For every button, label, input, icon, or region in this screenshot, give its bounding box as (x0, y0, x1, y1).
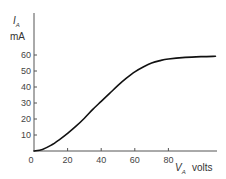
x-label-sub: A (181, 169, 186, 175)
x-tick-label: 60 (130, 155, 140, 165)
y-tick-label: 20 (21, 114, 31, 124)
y-tick-label: 50 (21, 66, 31, 76)
svg-text:VA: VA (175, 162, 186, 175)
y-tick-label: 60 (21, 50, 31, 60)
y-label-sub: A (15, 22, 20, 28)
x-tick-label: 20 (63, 155, 73, 165)
x-tick-label: 0 (28, 155, 33, 165)
y-tick-label: 40 (21, 82, 31, 92)
y-tick-label: 30 (21, 98, 31, 108)
chart: 102030405060 020406080 IA mA VA volts (0, 0, 226, 179)
svg-text:IA: IA (13, 15, 20, 28)
y-tick-label: 10 (21, 130, 31, 140)
y-ticks: 102030405060 (21, 50, 37, 140)
y-label-unit: mA (10, 31, 25, 42)
x-tick-label: 40 (96, 155, 106, 165)
x-tick-label: 80 (163, 155, 173, 165)
y-axis-label: IA mA (10, 15, 25, 42)
data-line (34, 56, 215, 151)
x-label-unit: volts (192, 162, 213, 173)
x-axis-label: VA volts (175, 162, 213, 175)
